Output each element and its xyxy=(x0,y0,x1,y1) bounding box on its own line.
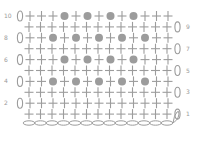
single-crochet-icon xyxy=(49,11,58,21)
single-crochet-icon xyxy=(37,55,46,65)
single-crochet-icon xyxy=(106,98,115,108)
single-crochet-icon xyxy=(26,98,35,108)
single-crochet-icon xyxy=(152,98,161,108)
single-crochet-icon xyxy=(94,109,103,119)
single-crochet-icon xyxy=(72,55,81,65)
single-crochet-icon xyxy=(49,55,58,65)
foundation-chain-icon xyxy=(23,121,35,125)
single-crochet-icon xyxy=(48,87,57,97)
single-crochet-icon xyxy=(59,22,68,32)
single-crochet-icon xyxy=(164,76,173,86)
single-crochet-icon xyxy=(72,11,81,21)
single-crochet-icon xyxy=(72,98,81,108)
row-number-label: 10 xyxy=(4,12,12,19)
single-crochet-icon xyxy=(94,66,103,76)
chain-icon xyxy=(17,55,22,65)
single-crochet-icon xyxy=(164,98,173,108)
single-crochet-icon xyxy=(141,98,150,108)
single-crochet-icon xyxy=(49,98,58,108)
single-crochet-icon xyxy=(94,87,103,97)
single-crochet-icon xyxy=(152,11,161,21)
single-crochet-icon xyxy=(71,44,80,54)
single-crochet-icon xyxy=(95,98,104,108)
bobble-icon xyxy=(130,12,138,20)
single-crochet-icon xyxy=(128,22,137,32)
single-crochet-icon xyxy=(83,76,92,86)
chain-icon xyxy=(17,98,22,108)
single-crochet-icon xyxy=(95,11,104,21)
foundation-chain-icon xyxy=(150,121,162,125)
single-crochet-icon xyxy=(128,66,137,76)
single-crochet-icon xyxy=(163,22,172,32)
foundation-chain-icon xyxy=(115,121,127,125)
single-crochet-icon xyxy=(140,66,149,76)
single-crochet-icon xyxy=(105,87,114,97)
foundation-chain-icon xyxy=(138,121,150,125)
single-crochet-icon xyxy=(118,55,127,65)
bobble-icon xyxy=(84,12,92,20)
row-number-label: 6 xyxy=(4,56,8,63)
row-number-label: 1 xyxy=(186,110,190,117)
row-number-label: 9 xyxy=(186,23,190,30)
single-crochet-icon xyxy=(151,66,160,76)
foundation-chain-icon xyxy=(58,121,70,125)
row-number-label: 8 xyxy=(4,34,8,41)
single-crochet-icon xyxy=(128,109,137,119)
single-crochet-icon xyxy=(140,87,149,97)
single-crochet-icon xyxy=(94,44,103,54)
single-crochet-icon xyxy=(82,44,91,54)
single-crochet-icon xyxy=(117,44,126,54)
single-crochet-icon xyxy=(151,109,160,119)
single-crochet-icon xyxy=(82,22,91,32)
chain-icon xyxy=(175,44,180,54)
single-crochet-icon xyxy=(37,11,46,21)
single-crochet-icon xyxy=(36,22,45,32)
single-crochet-icon xyxy=(60,76,69,86)
row-number-label: 5 xyxy=(186,67,190,74)
single-crochet-icon xyxy=(71,22,80,32)
single-crochet-icon xyxy=(71,66,80,76)
single-crochet-icon xyxy=(48,22,57,32)
single-crochet-icon xyxy=(163,87,172,97)
single-crochet-icon xyxy=(140,109,149,119)
bobble-icon xyxy=(118,34,126,42)
single-crochet-icon xyxy=(37,76,46,86)
single-crochet-icon xyxy=(48,109,57,119)
single-crochet-icon xyxy=(82,109,91,119)
single-crochet-icon xyxy=(48,66,57,76)
single-crochet-icon xyxy=(163,44,172,54)
bobble-icon xyxy=(118,77,126,85)
single-crochet-icon xyxy=(118,11,127,21)
single-crochet-icon xyxy=(59,44,68,54)
stitch-diagram: 10987654321 xyxy=(0,0,199,142)
single-crochet-icon xyxy=(140,22,149,32)
bobble-icon xyxy=(61,56,69,64)
foundation-chain-icon xyxy=(46,121,58,125)
row-number-label: 7 xyxy=(186,45,190,52)
foundation-chain-icon xyxy=(81,121,93,125)
single-crochet-icon xyxy=(117,87,126,97)
single-crochet-icon xyxy=(82,66,91,76)
single-crochet-icon xyxy=(71,87,80,97)
single-crochet-icon xyxy=(26,11,35,21)
chain-icon xyxy=(17,76,22,86)
single-crochet-icon xyxy=(152,55,161,65)
bobble-icon xyxy=(141,34,149,42)
single-crochet-icon xyxy=(36,87,45,97)
single-crochet-icon xyxy=(60,98,69,108)
bobble-icon xyxy=(95,34,103,42)
bobble-icon xyxy=(95,77,103,85)
foundation-chain-icon xyxy=(104,121,116,125)
single-crochet-icon xyxy=(59,66,68,76)
single-crochet-icon xyxy=(26,55,35,65)
single-crochet-icon xyxy=(25,109,34,119)
bobble-icon xyxy=(84,56,92,64)
single-crochet-icon xyxy=(83,98,92,108)
single-crochet-icon xyxy=(152,33,161,43)
single-crochet-icon xyxy=(164,33,173,43)
single-crochet-icon xyxy=(151,87,160,97)
single-crochet-icon xyxy=(141,55,150,65)
foundation-chain-icon xyxy=(92,121,104,125)
single-crochet-icon xyxy=(106,33,115,43)
bobble-icon xyxy=(49,34,57,42)
